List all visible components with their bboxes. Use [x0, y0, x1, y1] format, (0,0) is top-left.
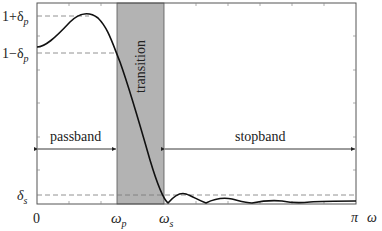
label-upper-passband: 1+δp	[2, 9, 29, 27]
label-wp: ωp	[111, 210, 127, 229]
magnitude-curve	[37, 14, 356, 203]
label-zero: 0	[33, 211, 40, 226]
axis-ticks	[37, 3, 356, 204]
label-ws: ωs	[159, 210, 174, 229]
transition-band	[117, 3, 164, 204]
label-passband: passband	[50, 129, 101, 144]
label-omega-axis: ω	[367, 210, 377, 225]
label-stopband-ripple: δs	[17, 188, 28, 206]
filter-spec-diagram: 1+δp 1−δp δs 0 ωp ωs π ω passband stopba…	[0, 0, 382, 231]
label-pi: π	[351, 210, 359, 225]
label-transition: transition	[133, 40, 148, 93]
label-stopband: stopband	[235, 129, 286, 144]
plot-frame	[37, 3, 356, 204]
label-lower-passband: 1−δp	[2, 46, 29, 64]
